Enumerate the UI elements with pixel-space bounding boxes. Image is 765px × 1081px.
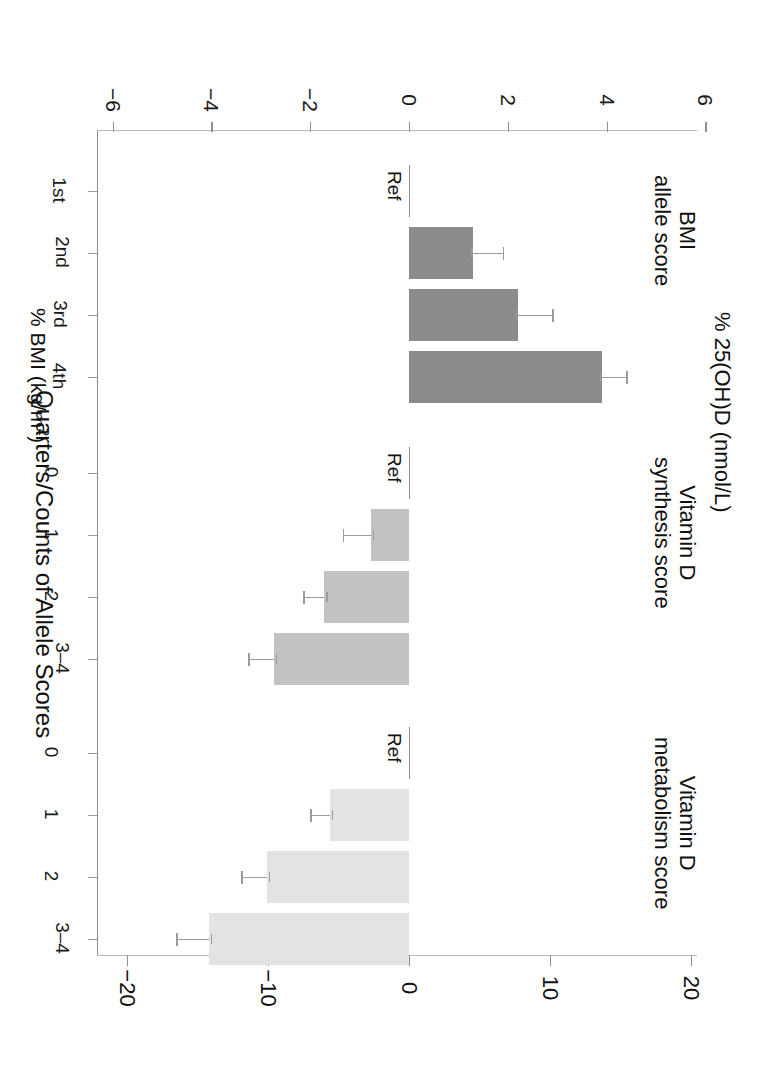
group-label-line: synthesis score xyxy=(650,457,675,609)
point-estimate-marker xyxy=(516,310,517,320)
bottom-axis-tick-label: 20 xyxy=(678,976,704,1000)
bar xyxy=(409,289,518,341)
group-label-line: allele score xyxy=(650,175,675,286)
bottom-axis-tick-label: −20 xyxy=(114,969,140,1006)
error-bar-line xyxy=(241,877,266,878)
category-tick xyxy=(88,597,97,598)
reference-label: Ref xyxy=(383,733,405,763)
category-tick xyxy=(88,253,97,254)
error-bar-cap xyxy=(176,933,177,946)
top-axis-tick xyxy=(310,122,311,132)
group-label-line: BMI xyxy=(675,175,700,286)
reference-line xyxy=(409,165,410,217)
top-axis-tick-label: −4 xyxy=(199,88,223,112)
category-label: 4th xyxy=(48,363,70,389)
error-bar-line xyxy=(310,815,330,816)
bar xyxy=(209,913,409,965)
error-bar-line xyxy=(303,597,324,598)
point-estimate-marker xyxy=(211,934,212,944)
category-tick xyxy=(88,315,97,316)
bar xyxy=(330,789,409,841)
error-bar-cap xyxy=(626,371,627,384)
category-tick xyxy=(88,659,97,660)
category-label: 3rd xyxy=(49,300,71,327)
category-label: 2 xyxy=(40,871,62,882)
category-label: 2 xyxy=(40,591,62,602)
top-axis-tick xyxy=(705,122,706,132)
group-label: Vitamin Dmetabolism score xyxy=(650,737,700,909)
bottom-axis-title: % 25(OH)D (nmol/L) xyxy=(709,312,735,512)
error-bar-line xyxy=(248,659,273,660)
category-label: 2nd xyxy=(51,236,73,268)
category-label: 0 xyxy=(40,467,62,478)
point-estimate-marker xyxy=(269,872,270,882)
group-label-line: Vitamin D xyxy=(675,457,700,609)
error-bar-cap xyxy=(503,247,504,260)
chart-figure: −6−4−20246 % BMI (kg/m2) −20−1001020 % 2… xyxy=(0,0,765,1081)
error-bar-cap xyxy=(310,809,311,822)
top-axis-tick-label: 6 xyxy=(693,94,717,106)
top-axis: −6−4−20246 xyxy=(97,122,697,124)
error-bar-line xyxy=(343,535,371,536)
reference-label: Ref xyxy=(383,453,405,483)
error-bar-line xyxy=(473,253,503,254)
category-tick xyxy=(88,473,97,474)
bar xyxy=(267,851,409,903)
point-estimate-marker xyxy=(332,810,333,820)
point-estimate-marker xyxy=(276,654,277,664)
category-label: 3–4 xyxy=(51,922,73,954)
bar xyxy=(371,509,409,561)
bar xyxy=(324,571,409,623)
reference-line xyxy=(409,727,410,779)
top-axis-tick-label: 0 xyxy=(397,94,421,106)
point-estimate-marker xyxy=(373,530,374,540)
error-bar-cap xyxy=(343,529,344,542)
category-label: 1st xyxy=(48,177,70,202)
category-tick xyxy=(88,753,97,754)
category-tick xyxy=(88,377,97,378)
error-bar-cap xyxy=(303,591,304,604)
bottom-axis-tick-label: 0 xyxy=(396,982,422,994)
bottom-axis-tick-label: −10 xyxy=(255,969,281,1006)
category-tick xyxy=(88,191,97,192)
top-axis-tick xyxy=(409,122,410,132)
bottom-axis-tick xyxy=(691,955,692,966)
top-axis-tick xyxy=(211,122,212,132)
category-label: 3–4 xyxy=(51,642,73,674)
category-tick xyxy=(88,535,97,536)
category-label: 0 xyxy=(40,747,62,758)
error-bar-cap xyxy=(248,653,249,666)
bottom-axis-tick xyxy=(127,955,128,966)
top-axis-tick-label: −6 xyxy=(101,88,125,112)
point-estimate-marker xyxy=(471,248,472,258)
top-axis-tick-label: 4 xyxy=(595,94,619,106)
bar xyxy=(409,351,602,403)
group-label-line: metabolism score xyxy=(650,737,675,909)
error-bar-line xyxy=(602,377,627,378)
bottom-axis-tick xyxy=(550,955,551,966)
group-label: Vitamin Dsynthesis score xyxy=(650,457,700,609)
top-axis-tick xyxy=(508,122,509,132)
category-label: 1 xyxy=(40,809,62,820)
top-axis-tick xyxy=(607,122,608,132)
category-label: 1 xyxy=(40,529,62,540)
bar xyxy=(409,227,473,279)
error-bar-line xyxy=(518,315,553,316)
bottom-axis-tick-label: 10 xyxy=(537,976,563,1000)
bar xyxy=(274,633,409,685)
category-tick xyxy=(88,877,97,878)
category-tick xyxy=(88,939,97,940)
top-axis-tick xyxy=(113,122,114,132)
group-label: BMIallele score xyxy=(650,175,700,286)
error-bar-cap xyxy=(552,309,553,322)
error-bar-line xyxy=(176,939,208,940)
point-estimate-marker xyxy=(600,372,601,382)
reference-label: Ref xyxy=(383,171,405,201)
top-axis-tick-label: 2 xyxy=(496,94,520,106)
bottom-axis-tick xyxy=(409,955,410,966)
group-label-line: Vitamin D xyxy=(675,737,700,909)
top-axis-tick-label: −2 xyxy=(298,88,322,112)
category-tick xyxy=(88,815,97,816)
error-bar-cap xyxy=(241,871,242,884)
reference-line xyxy=(409,447,410,499)
